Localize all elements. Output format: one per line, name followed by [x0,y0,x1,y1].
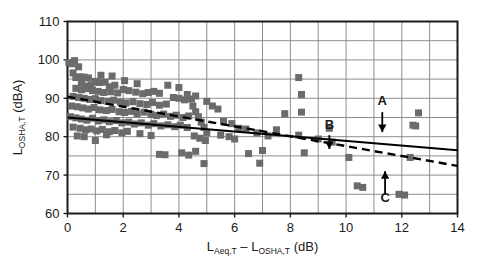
data-point-marker [259,147,266,154]
data-point-marker [100,89,107,96]
data-point-marker [415,109,422,116]
scatter-plot-svg: ABC 6070809010011002468101214 LAeq,T – L… [0,0,477,262]
data-point-marker [192,148,199,155]
data-point-marker [245,150,252,157]
data-point-marker [71,57,78,64]
data-point-marker [75,63,82,70]
data-point-marker [203,129,210,136]
data-point-marker [97,72,104,79]
data-point-marker [148,132,155,139]
data-point-marker [121,109,128,116]
data-point-marker [298,91,305,98]
data-point-marker [103,131,110,138]
data-point-marker [134,80,141,87]
data-point-marker [111,127,118,134]
y-tick-label: 110 [39,14,60,29]
chart-figure: ABC 6070809010011002468101214 LAeq,T – L… [0,0,477,262]
data-point-marker [136,100,143,107]
x-tick-label: 2 [120,220,127,235]
data-point-marker [163,101,170,108]
data-point-marker [85,74,92,81]
data-point-marker [217,132,224,139]
data-point-marker [132,89,139,96]
data-point-marker [134,110,141,117]
data-point-marker [298,109,305,116]
x-tick-label: 12 [395,220,409,235]
data-point-marker [109,73,116,80]
data-point-marker [192,92,199,99]
data-point-marker [149,99,156,106]
data-point-marker [111,82,118,89]
x-tick-label: 10 [339,220,353,235]
data-point-marker [401,192,408,199]
data-point-marker [359,184,366,191]
data-point-marker [136,130,143,137]
data-point-marker [256,160,263,167]
x-tick-label: 0 [64,220,71,235]
data-point-marker [156,90,163,97]
data-point-marker [107,88,114,95]
data-point-marker [178,149,185,156]
data-point-marker [295,74,302,81]
data-point-marker [70,124,77,131]
data-point-marker [345,154,352,161]
data-point-marker [123,99,130,106]
data-point-marker [125,87,132,94]
data-point-marker [184,91,191,98]
data-point-marker [110,97,117,104]
data-point-marker [74,132,81,139]
data-point-marker [164,82,171,89]
y-tick-label: 90 [45,91,59,106]
annotation-label-b: B [325,117,334,132]
data-point-marker [281,110,288,117]
y-tick-label: 60 [45,206,59,221]
data-point-marker [201,160,208,167]
data-point-marker [156,102,163,109]
y-tick-label: 80 [45,129,59,144]
data-point-marker [129,98,136,105]
data-point-marker [92,137,99,144]
data-point-marker [301,149,308,156]
data-point-marker [185,152,192,159]
data-point-marker [175,84,182,91]
data-point-marker [121,77,128,84]
data-point-marker [162,151,169,158]
data-point-marker [96,106,103,113]
x-tick-label: 14 [450,220,464,235]
data-point-marker [214,106,221,113]
y-tick-label: 70 [45,168,59,183]
data-point-marker [231,136,238,143]
data-point-marker [202,137,209,144]
data-point-marker [203,98,210,105]
y-tick-label: 100 [38,52,60,67]
x-tick-label: 4 [175,220,182,235]
data-point-marker [124,128,131,135]
data-point-marker [109,106,116,113]
x-tick-label: 8 [287,220,294,235]
data-point-marker [81,133,88,140]
annotation-label-a: A [378,93,388,108]
x-tick-label: 6 [231,220,238,235]
data-point-marker [412,122,419,129]
